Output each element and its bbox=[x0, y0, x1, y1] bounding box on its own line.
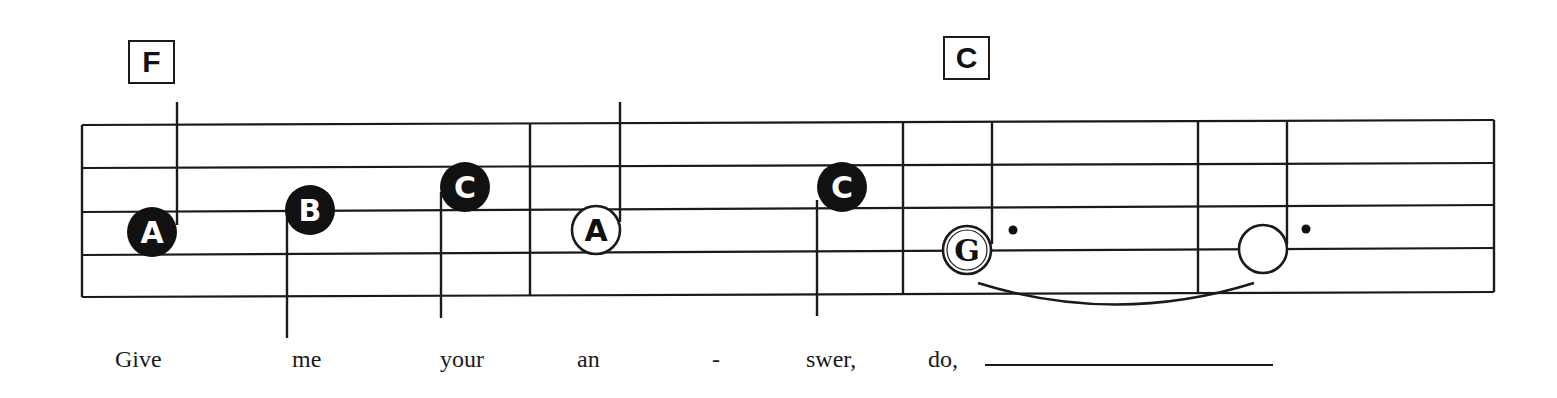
staff-line bbox=[82, 292, 1494, 297]
staff-line bbox=[82, 120, 1494, 125]
lyric-syllable: an bbox=[577, 346, 600, 373]
chord-symbol-c: C bbox=[943, 36, 990, 80]
augmentation-dot bbox=[1302, 225, 1311, 234]
svg-text:B: B bbox=[299, 193, 322, 228]
noteheads: ABCACG bbox=[127, 162, 1311, 274]
svg-text:C: C bbox=[831, 170, 853, 205]
notehead-c: C bbox=[440, 162, 490, 212]
music-staff: ABCACG bbox=[0, 0, 1557, 398]
svg-text:A: A bbox=[584, 213, 608, 248]
notehead-a: A bbox=[572, 206, 620, 254]
lyric-extender-line bbox=[985, 364, 1273, 366]
svg-text:C: C bbox=[454, 170, 476, 205]
notehead-a: A bbox=[127, 207, 177, 257]
note-stems bbox=[177, 102, 1287, 338]
notehead-c: C bbox=[817, 162, 867, 212]
lyric-syllable: swer, bbox=[806, 346, 856, 373]
lyric-syllable: Give bbox=[115, 346, 162, 373]
notehead-b: B bbox=[285, 185, 335, 235]
lyric-syllable: - bbox=[712, 346, 720, 373]
svg-text:A: A bbox=[140, 215, 164, 250]
staff-line bbox=[82, 163, 1494, 168]
chord-symbol-f: F bbox=[128, 40, 175, 84]
lyric-syllable: your bbox=[440, 346, 484, 373]
lyric-syllable: do, bbox=[928, 346, 958, 373]
augmentation-dot bbox=[1009, 226, 1018, 235]
svg-text:G: G bbox=[954, 233, 980, 268]
lyric-syllable: me bbox=[292, 346, 321, 373]
